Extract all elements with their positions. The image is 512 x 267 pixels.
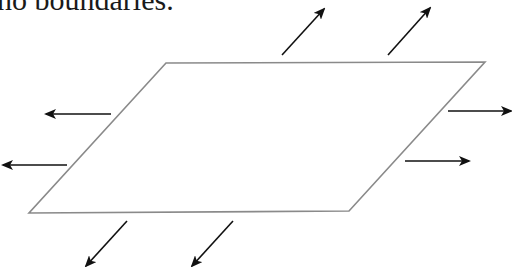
arrow-down-left-2-icon: [192, 221, 233, 266]
arrow-down-left-1-icon: [86, 221, 127, 266]
arrow-up-right-2-icon: [388, 8, 430, 55]
plane-parallelogram: [29, 62, 485, 213]
arrow-up-right-1-icon: [282, 9, 324, 55]
plane-diagram: [0, 0, 512, 267]
arrows-group: [3, 8, 511, 266]
